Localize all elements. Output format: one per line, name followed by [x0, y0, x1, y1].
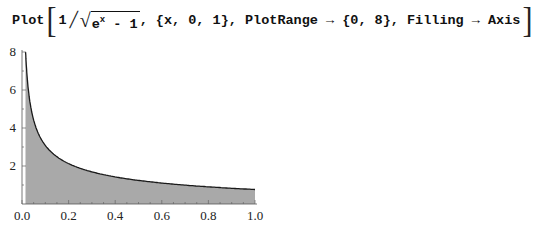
y-tick-label: 6 [10, 82, 17, 97]
x-tick-label: 0.4 [107, 208, 124, 223]
y-tick-label: 2 [10, 158, 17, 173]
x-tick-label: 0.6 [154, 208, 171, 223]
close-bracket: ] [522, 6, 532, 35]
y-tick-label: 8 [10, 44, 17, 59]
x-tick-label: 0.0 [14, 208, 30, 223]
y-tick-label: 4 [10, 120, 17, 135]
x-tick-label: 1.0 [247, 208, 263, 223]
x-tick-label: 0.8 [200, 208, 216, 223]
x-tick-label: 0.2 [60, 208, 76, 223]
